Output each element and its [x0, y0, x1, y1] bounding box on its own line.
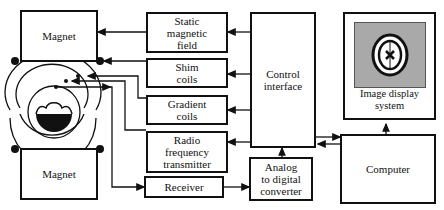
magnet-top-block: Magnet: [20, 10, 98, 62]
rf-transmitter-label: Radio frequency transmitter: [163, 134, 211, 170]
adc-label: Analog to digital converter: [260, 161, 302, 197]
gradient-coils-label: Gradient coils: [168, 98, 206, 122]
computer-block: Computer: [340, 134, 436, 204]
control-interface-label: Control interface: [264, 68, 302, 92]
rf-transmitter-block: Radio frequency transmitter: [146, 131, 228, 173]
receiver-block: Receiver: [144, 176, 224, 198]
image-display-label: Image display system: [360, 88, 419, 112]
head-illustration-icon: [36, 103, 72, 132]
magnet-bottom-block: Magnet: [20, 148, 98, 200]
display-screen: [354, 22, 426, 88]
brain-scan-icon: [355, 23, 425, 87]
adc-block: Analog to digital converter: [249, 157, 313, 201]
gradient-coils-block: Gradient coils: [146, 95, 228, 125]
shim-coils-label: Shim coils: [175, 61, 198, 85]
computer-label: Computer: [366, 163, 410, 175]
static-field-block: Static magnetic field: [146, 12, 228, 53]
static-field-label: Static magnetic field: [167, 15, 207, 51]
shim-coils-block: Shim coils: [146, 58, 228, 88]
receiver-label: Receiver: [164, 181, 203, 193]
control-interface-block: Control interface: [250, 12, 316, 148]
magnet-top-label: Magnet: [42, 30, 76, 42]
magnet-bottom-label: Magnet: [42, 168, 76, 180]
